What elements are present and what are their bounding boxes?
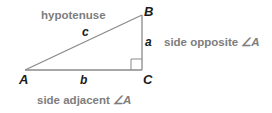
side-label-a: a: [145, 35, 152, 49]
side-opposite-annotation: side opposite ∠A: [164, 36, 260, 48]
right-triangle-diagram: hypotenuse side opposite ∠A side adjacen…: [0, 0, 272, 113]
angle-a-symbol: ∠A: [113, 94, 131, 106]
side-adjacent-annotation: side adjacent ∠A: [37, 94, 131, 106]
right-angle-marker: [131, 59, 142, 70]
vertex-label-a: A: [18, 72, 28, 87]
hypotenuse-annotation: hypotenuse: [41, 9, 106, 21]
angle-a-symbol: ∠A: [241, 36, 259, 48]
side-label-b: b: [80, 73, 87, 87]
side-label-c: c: [82, 25, 89, 39]
side-opposite-prefix: side opposite: [164, 36, 241, 48]
side-c-hypotenuse: [25, 15, 142, 70]
side-adjacent-prefix: side adjacent: [37, 94, 113, 106]
vertex-label-c: C: [143, 72, 153, 87]
vertex-label-b: B: [144, 4, 153, 19]
